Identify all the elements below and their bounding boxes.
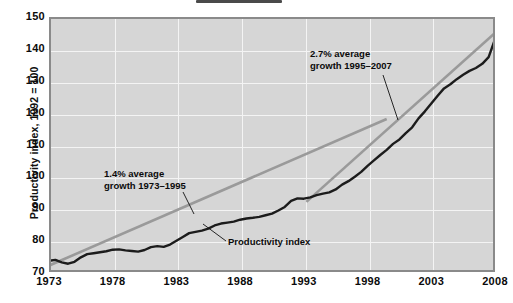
plot-area	[49, 17, 495, 272]
x-axis-tick-label: 2008	[470, 275, 513, 287]
plot-grid	[51, 19, 493, 270]
x-axis-tick-label: 1983	[151, 275, 201, 287]
x-axis-tick-label: 1993	[279, 275, 329, 287]
annotation-fast-growth: 2.7% average growth 1995–2007	[310, 48, 392, 72]
gridline-vertical	[178, 19, 179, 270]
gridline-horizontal	[51, 51, 493, 52]
gridline-vertical	[306, 19, 307, 270]
y-axis-tick-label: 130	[1, 74, 45, 86]
gridline-vertical	[115, 19, 116, 270]
x-axis-tick-label: 1988	[215, 275, 265, 287]
y-axis-tick-label: 110	[1, 138, 45, 150]
gridline-vertical	[433, 19, 434, 270]
y-axis-tick-label: 150	[1, 10, 45, 22]
productivity-index-chart: Productivity index, 1992 = 100 150140130…	[0, 0, 513, 303]
x-axis-tick-label: 2003	[406, 275, 456, 287]
y-axis-tick-label: 140	[1, 42, 45, 54]
x-axis-tick-labels: 19731978198319881993199820032008	[49, 275, 495, 295]
annotation-series-callout: Productivity index	[228, 236, 310, 247]
gridline-horizontal	[51, 115, 493, 116]
y-axis-tick-label: 80	[1, 233, 45, 245]
x-axis-tick-label: 1998	[343, 275, 393, 287]
y-axis-tick-label: 120	[1, 106, 45, 118]
annotation-slow-growth: 1.4% average growth 1973–1995	[104, 168, 186, 192]
x-axis-tick-label: 1973	[24, 275, 74, 287]
gridline-vertical	[242, 19, 243, 270]
gridline-horizontal	[51, 83, 493, 84]
gridline-horizontal	[51, 147, 493, 148]
y-axis-tick-label: 100	[1, 169, 45, 181]
gridline-horizontal	[51, 210, 493, 211]
x-axis-tick-label: 1978	[88, 275, 138, 287]
y-axis-tick-label: 90	[1, 201, 45, 213]
y-axis-tick-labels: 150140130120110100908070	[0, 17, 45, 272]
